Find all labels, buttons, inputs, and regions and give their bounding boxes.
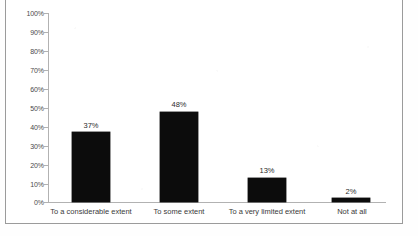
y-tick-20 <box>44 165 49 166</box>
category-label-3: To a very limited extent <box>214 207 320 216</box>
y-tick-100 <box>44 13 49 14</box>
chart-page: 100% 90% 80% 70% 60% 50% 40% 30% 20% 10%… <box>0 0 418 236</box>
y-tick-50 <box>44 108 49 109</box>
y-tick-10 <box>44 184 49 185</box>
bar-value-label-2: 48% <box>160 101 198 109</box>
y-tick-40 <box>44 127 49 128</box>
bar-to-a-very-limited-extent[interactable] <box>248 178 286 202</box>
bar-value-label-1: 37% <box>72 122 110 130</box>
y-tick-label-10: 10% <box>10 181 44 188</box>
x-axis-line <box>48 202 386 203</box>
category-label-1: To a considerable extent <box>41 207 141 216</box>
y-tick-label-20: 20% <box>10 162 44 169</box>
y-tick-label-80: 80% <box>10 48 44 55</box>
y-tick-70 <box>44 70 49 71</box>
bar-value-label-3: 13% <box>248 167 286 175</box>
plot-area: 100% 90% 80% 70% 60% 50% 40% 30% 20% 10%… <box>0 0 418 236</box>
y-tick-30 <box>44 146 49 147</box>
bar-value-label-4: 2% <box>332 188 370 196</box>
y-tick-80 <box>44 51 49 52</box>
y-tick-label-40: 40% <box>10 124 44 131</box>
y-tick-0 <box>44 202 49 203</box>
y-tick-label-100: 100% <box>10 10 44 17</box>
bar-to-a-considerable-extent[interactable] <box>72 132 110 202</box>
y-tick-60 <box>44 89 49 90</box>
y-tick-label-30: 30% <box>10 143 44 150</box>
y-tick-90 <box>44 32 49 33</box>
category-label-4: Not at all <box>314 207 390 216</box>
bar-not-at-all[interactable] <box>332 198 370 202</box>
y-tick-label-70: 70% <box>10 67 44 74</box>
y-tick-label-90: 90% <box>10 29 44 36</box>
y-tick-label-0: 0% <box>10 199 44 206</box>
bar-to-some-extent[interactable] <box>160 112 198 202</box>
y-tick-label-50: 50% <box>10 105 44 112</box>
y-tick-label-60: 60% <box>10 86 44 93</box>
category-label-2: To some extent <box>136 207 222 216</box>
